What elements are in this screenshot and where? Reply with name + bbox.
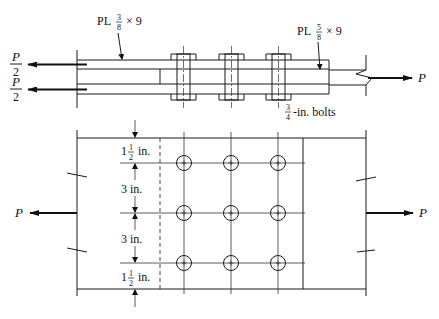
svg-text:P: P [11,49,20,64]
svg-text:PL: PL [97,14,111,28]
plan-view: 1 1 2 in. 3 in. 3 in. 1 1 2 in. P P [14,120,427,307]
elevation-view: P 2 P 2 P PL 3 8 × 9 PL 5 8 × 9 [10,13,426,122]
plan-load-label-left: P [14,205,23,220]
svg-text:× 9: × 9 [326,24,342,38]
bolt-elevation [266,46,291,108]
load-label-bottom: P 2 [10,74,22,104]
outer-plate-label: PL 3 8 × 9 [97,13,142,59]
svg-text:PL: PL [297,24,311,38]
svg-text:8: 8 [317,33,321,42]
svg-text:2: 2 [13,90,19,104]
dim-edge-top: 1 1 2 in. [121,143,150,162]
bolt-elevation [171,46,196,108]
plan-load-label-right: P [418,205,427,220]
svg-text:4: 4 [286,113,290,122]
dim-spacing-1: 3 in. [121,182,142,196]
svg-text:3: 3 [117,13,121,22]
bolt-elevation [219,46,244,108]
connection-diagram: P 2 P 2 P PL 3 8 × 9 PL 5 8 × 9 [0,0,439,319]
dim-spacing-2: 3 in. [121,232,142,246]
svg-text:1: 1 [121,270,127,284]
svg-text:3: 3 [286,103,290,112]
svg-text:1: 1 [121,144,127,158]
svg-text:1: 1 [129,143,133,152]
svg-text:-in. bolts: -in. bolts [293,105,336,119]
svg-text:in.: in. [138,144,150,158]
bolt-size-label: 3 4 -in. bolts [285,103,336,122]
inner-plate-label: PL 5 8 × 9 [297,23,342,69]
load-label-right: P [417,70,426,85]
svg-text:1: 1 [129,269,133,278]
svg-text:2: 2 [129,153,133,162]
svg-text:8: 8 [117,23,121,32]
svg-text:× 9: × 9 [126,14,142,28]
svg-text:5: 5 [317,23,321,32]
svg-text:P: P [11,74,20,89]
svg-text:in.: in. [138,270,150,284]
dim-edge-bottom: 1 1 2 in. [121,269,150,288]
svg-text:2: 2 [129,279,133,288]
